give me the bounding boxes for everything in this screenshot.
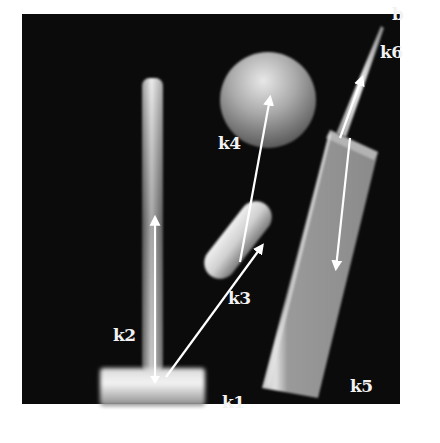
label-k5: k5 — [350, 376, 373, 396]
label-k3: k3 — [228, 288, 251, 308]
scene-canvas — [0, 0, 440, 443]
figure: b k6 k4 k3 k2 k1 k5 — [0, 0, 440, 443]
label-k2: k2 — [113, 325, 136, 345]
label-k4: k4 — [218, 133, 241, 153]
label-k6: k6 — [380, 42, 403, 62]
base-block-object — [100, 368, 205, 406]
tall-cylinder-object — [142, 78, 163, 373]
label-k1: k1 — [222, 392, 245, 412]
label-b: b — [392, 4, 403, 24]
